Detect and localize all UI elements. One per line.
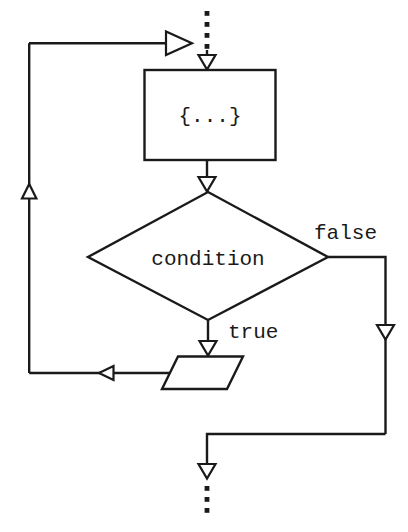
entry-arrowhead-icon <box>199 55 216 70</box>
loopback-bottom-connector <box>29 366 170 380</box>
loopback-arrowhead-icon <box>166 32 192 56</box>
exit-connector <box>199 434 386 479</box>
loop-action-shape <box>162 357 243 390</box>
false-branch-connector <box>328 257 394 434</box>
exit-arrowhead-icon <box>199 464 216 479</box>
false-branch-label: false <box>314 222 377 245</box>
true-branch-arrowhead-icon <box>200 341 217 356</box>
true-branch-label: true <box>228 321 278 344</box>
block-to-decision-connector <box>199 160 216 192</box>
flowchart-diagram: {...} condition false true <box>0 0 408 532</box>
true-branch-connector <box>200 320 217 356</box>
false-branch-arrowhead-icon <box>377 325 394 340</box>
decision-entry-arrowhead-icon <box>199 177 216 192</box>
loopback-up-arrowhead-icon <box>22 184 36 199</box>
body-block-label: {...} <box>178 105 241 128</box>
entry-dotted-connector <box>199 11 216 70</box>
loopback-top-connector <box>29 32 192 56</box>
loopback-left-arrowhead-icon <box>99 366 114 380</box>
loopback-left-connector <box>22 43 36 373</box>
exit-dotted-tail <box>205 486 210 513</box>
flowchart-canvas: {...} condition false true <box>0 0 408 532</box>
decision-label: condition <box>151 248 264 271</box>
